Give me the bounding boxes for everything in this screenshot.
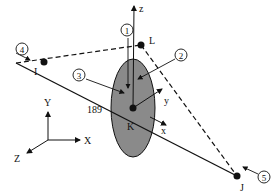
global-y-label: Y (44, 97, 51, 108)
node-i-label: I (34, 66, 37, 77)
node-k-label: K (127, 121, 135, 132)
node-j-label: J (240, 182, 244, 193)
node-k (130, 105, 137, 112)
local-z-label: z (139, 3, 144, 14)
face-1-label: 1 (125, 26, 130, 36)
node-j (234, 173, 241, 180)
face-5-leader (243, 167, 258, 174)
global-z-label: Z (14, 153, 20, 164)
node-l-label: L (149, 35, 155, 46)
face-3-label: 3 (77, 71, 82, 81)
global-x-label: X (84, 135, 92, 146)
face-5-label: 5 (262, 173, 267, 183)
face-2-label: 2 (179, 51, 184, 61)
beam-element-diagram: 1 2 3 4 5 I L K J z y x 189 Y X Z (0, 0, 280, 194)
node-i (41, 59, 48, 66)
face-4-label: 4 (20, 45, 25, 55)
element-number: 189 (87, 104, 102, 115)
dashed-line-i-l (16, 45, 141, 63)
node-l (138, 42, 145, 49)
global-z-axis (27, 140, 48, 153)
local-x-label: x (161, 125, 166, 136)
local-y-label: y (164, 95, 169, 106)
